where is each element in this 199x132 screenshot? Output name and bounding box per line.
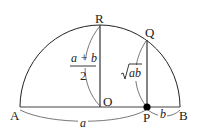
label-segment-a: a xyxy=(80,116,86,130)
label-B: B xyxy=(179,108,188,123)
label-sqrt-ab: ab xyxy=(129,66,141,80)
am-gm-semicircle-diagram: R Q O A P B a + b 2 ab a b xyxy=(0,0,199,132)
label-a-plus-b: a + b xyxy=(71,51,97,65)
label-A: A xyxy=(10,108,20,123)
label-denominator-2: 2 xyxy=(80,68,87,83)
label-R: R xyxy=(95,11,104,26)
label-O: O xyxy=(103,94,112,109)
label-segment-b: b xyxy=(160,107,166,121)
label-P: P xyxy=(143,110,150,125)
label-Q: Q xyxy=(145,25,155,40)
